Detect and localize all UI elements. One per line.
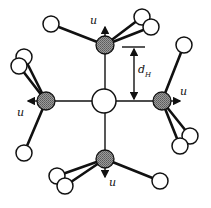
label-u-right: u xyxy=(180,85,187,98)
diagram-figure: u u u u d H xyxy=(0,0,211,208)
shaded-atom-left xyxy=(37,92,55,110)
shaded-atom-right xyxy=(153,92,171,110)
ligand-atom xyxy=(176,37,192,53)
ligand-atom xyxy=(43,16,59,32)
label-u-bottom: u xyxy=(109,176,116,189)
label-u-left: u xyxy=(17,106,24,119)
ligand-atom xyxy=(152,173,168,189)
shaded-atom-bottom xyxy=(96,150,114,168)
ligand-atom xyxy=(57,178,73,194)
label-u-top: u xyxy=(90,14,97,27)
label-distance-subscript: H xyxy=(144,71,152,79)
structure-diagram: u u u u d H xyxy=(0,0,211,208)
label-distance: d xyxy=(138,63,145,76)
ligand-atom xyxy=(16,145,32,161)
ligand-atom xyxy=(11,58,27,74)
shaded-atom-top xyxy=(96,36,114,54)
ligand-atom xyxy=(172,138,188,154)
central-atom xyxy=(92,89,116,113)
ligand-atom xyxy=(143,19,159,35)
